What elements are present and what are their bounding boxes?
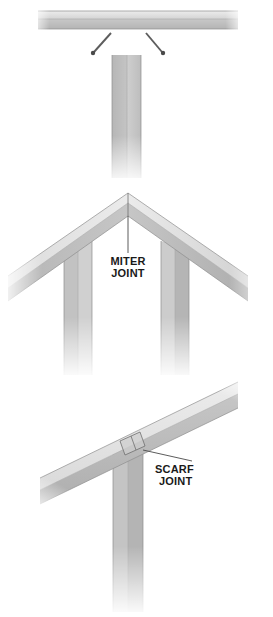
- miter-joint-label-line1: MITER: [110, 255, 145, 267]
- horizontal-plate: [38, 11, 238, 29]
- scarf-post: [113, 448, 143, 612]
- joint-diagram-figure: MITER JOINT: [0, 0, 273, 617]
- post-left: [64, 241, 92, 375]
- miter-joint-label-line2: JOINT: [111, 267, 144, 279]
- joint-diagram-canvas: MITER JOINT: [0, 0, 273, 617]
- post-right: [161, 241, 189, 375]
- scarf-joint-label-line1: SCARF: [155, 463, 194, 475]
- vertical-post: [112, 26, 141, 178]
- scarf-joint-label-line2: JOINT: [159, 475, 192, 487]
